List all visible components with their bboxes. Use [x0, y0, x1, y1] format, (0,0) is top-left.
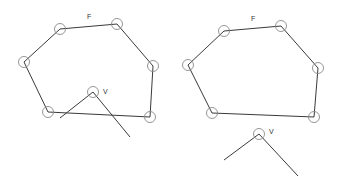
wedge-v [224, 134, 298, 176]
polygon-label: F [87, 13, 91, 20]
diagram-canvas: FV FV [0, 0, 338, 183]
panel-left: FV [19, 13, 159, 137]
wedge-label: V [103, 88, 108, 95]
polygon-f [24, 24, 153, 117]
polygon-f [188, 26, 318, 117]
panel-right: FV [183, 15, 324, 176]
wedge-label: V [269, 128, 274, 135]
polygon-label: F [251, 15, 255, 22]
